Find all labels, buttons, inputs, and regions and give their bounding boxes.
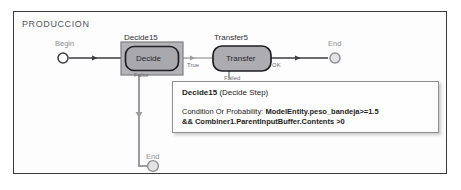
- tooltip-body: Condition Or Probability: ModelEntity.pe…: [182, 107, 430, 127]
- node-end-right[interactable]: [330, 53, 340, 63]
- node-end-bottom-label: End: [146, 152, 159, 161]
- tooltip-title: Decide15: [182, 88, 217, 97]
- tooltip-property-label: Condition Or Probability:: [182, 107, 263, 116]
- node-decide15-name: Decide15: [124, 33, 158, 42]
- tooltip-subtitle: (Decide Step): [219, 88, 268, 97]
- edge-label-ok: OK: [272, 62, 281, 68]
- edge-decide-true: [182, 56, 214, 61]
- tooltip-expression-part2: && Combiner1.ParentInputBuffer.Contents …: [182, 117, 345, 126]
- node-begin[interactable]: [58, 53, 68, 63]
- node-transfer5-text: Transfer: [226, 54, 256, 63]
- edge-transfer-ok: [271, 55, 328, 60]
- tooltip-expression-part1: ModelEntity.peso_bandeja>=1.5: [265, 107, 378, 116]
- node-end-right-label: End: [328, 39, 341, 48]
- tooltip-expression-line2: && Combiner1.ParentInputBuffer.Contents …: [182, 117, 430, 127]
- diagram-canvas: PRODUCCION: [0, 0, 461, 190]
- edge-begin-to-decide: [69, 55, 124, 60]
- edge-label-false: False: [134, 72, 149, 78]
- node-begin-label: Begin: [55, 39, 74, 48]
- node-end-bottom[interactable]: [148, 161, 159, 172]
- tooltip-expression-line1: Condition Or Probability: ModelEntity.pe…: [182, 107, 430, 117]
- edge-label-true: True: [187, 62, 199, 68]
- node-decide15-text: Decide: [136, 54, 161, 63]
- step-tooltip: Decide15 (Decide Step) Condition Or Prob…: [172, 81, 439, 133]
- node-transfer5-name: Transfer5: [214, 33, 248, 42]
- tooltip-header: Decide15 (Decide Step): [182, 88, 430, 98]
